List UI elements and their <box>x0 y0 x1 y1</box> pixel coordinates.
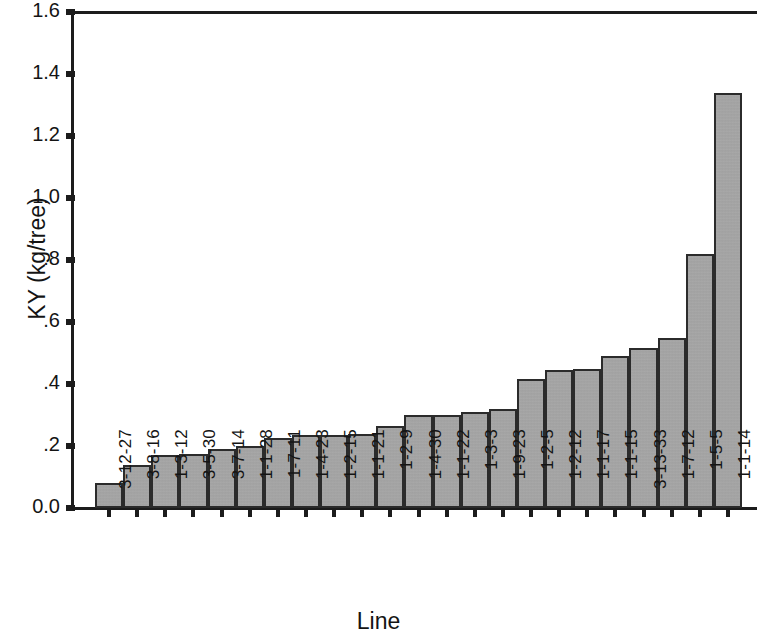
x-axis-tick-label: 1-7-12 <box>679 429 699 519</box>
plot-area <box>95 12 742 508</box>
y-axis-tick-label: .4 <box>0 371 60 394</box>
x-axis-tick-label: 3-12-27 <box>116 429 136 519</box>
y-axis-tick <box>66 71 75 77</box>
y-axis-tick-label: 1.6 <box>0 0 60 22</box>
y-axis-tick-label: 1.4 <box>0 61 60 84</box>
x-axis-tick-label: 1-3-3 <box>482 429 502 519</box>
y-axis-tick-label: .6 <box>0 309 60 332</box>
x-axis-tick <box>417 509 421 517</box>
x-axis-tick-label: 1-1-15 <box>622 429 642 519</box>
x-axis-tick-label: 1-2-12 <box>566 429 586 519</box>
x-axis-tick <box>220 509 224 517</box>
x-axis-tick-label: 3-13-33 <box>651 429 671 519</box>
x-axis-tick-label: 1-1-21 <box>369 429 389 519</box>
x-axis-tick <box>191 509 195 517</box>
x-axis-tick <box>642 509 646 517</box>
x-axis-tick-label: 1-1-28 <box>257 429 277 519</box>
x-axis-tick-label: 1-2-5 <box>538 429 558 519</box>
y-axis-tick-label: 1.2 <box>0 123 60 146</box>
y-axis-tick <box>66 443 75 449</box>
x-axis-tick-label: 1-2-15 <box>341 429 361 519</box>
x-axis-tick-label: 1-1-14 <box>735 429 755 519</box>
x-axis-tick-label: 3-7-14 <box>229 429 249 519</box>
x-axis-tick-label: 1-9-23 <box>510 429 530 519</box>
x-axis-tick-label: 1-7-11 <box>285 429 305 519</box>
bar-chart: KY (kg/tree) 0.0.2.4.6.81.01.21.41.6 3-1… <box>0 0 757 642</box>
x-axis-tick-label: 3-8-16 <box>144 429 164 519</box>
x-axis-tick <box>613 509 617 517</box>
y-axis-tick-label: 0.0 <box>0 495 60 518</box>
x-axis-tick <box>107 509 111 517</box>
x-axis-tick-label: 1-5-5 <box>707 429 727 519</box>
y-axis-tick <box>66 133 75 139</box>
y-axis-tick <box>66 195 75 201</box>
y-axis-tick <box>66 319 75 325</box>
y-axis-tick <box>66 257 75 263</box>
y-axis-tick <box>66 381 75 387</box>
x-axis-tick-label: 1-4-30 <box>426 429 446 519</box>
x-axis-tick-label: 3-5-30 <box>200 429 220 519</box>
y-axis-tick-label: .2 <box>0 433 60 456</box>
y-axis-tick-label: .8 <box>0 247 60 270</box>
x-axis-tick-label: 1-2-9 <box>397 429 417 519</box>
x-axis-tick-label: 1-4-23 <box>313 429 333 519</box>
y-axis-tick <box>66 9 75 15</box>
y-axis-tick-label: 1.0 <box>0 185 60 208</box>
x-axis-tick-label: 1-1-17 <box>594 429 614 519</box>
x-axis-title: Line <box>0 608 757 635</box>
x-axis-tick-label: 1-1-22 <box>454 429 474 519</box>
x-axis-tick-label: 1-3-12 <box>172 429 192 519</box>
